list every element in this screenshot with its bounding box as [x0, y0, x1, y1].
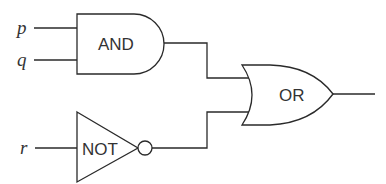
logic-circuit-diagram: p q r AND NOT OR [0, 0, 386, 184]
not-gate-label: NOT [82, 140, 118, 159]
input-label-p: p [15, 17, 27, 38]
input-label-q: q [17, 49, 27, 70]
input-label-r: r [20, 137, 28, 158]
wire-not-to-or [152, 112, 252, 148]
wire-and-to-or [164, 43, 252, 78]
or-gate-label: OR [279, 86, 305, 105]
not-gate-bubble [138, 141, 152, 155]
and-gate-label: AND [98, 35, 134, 54]
